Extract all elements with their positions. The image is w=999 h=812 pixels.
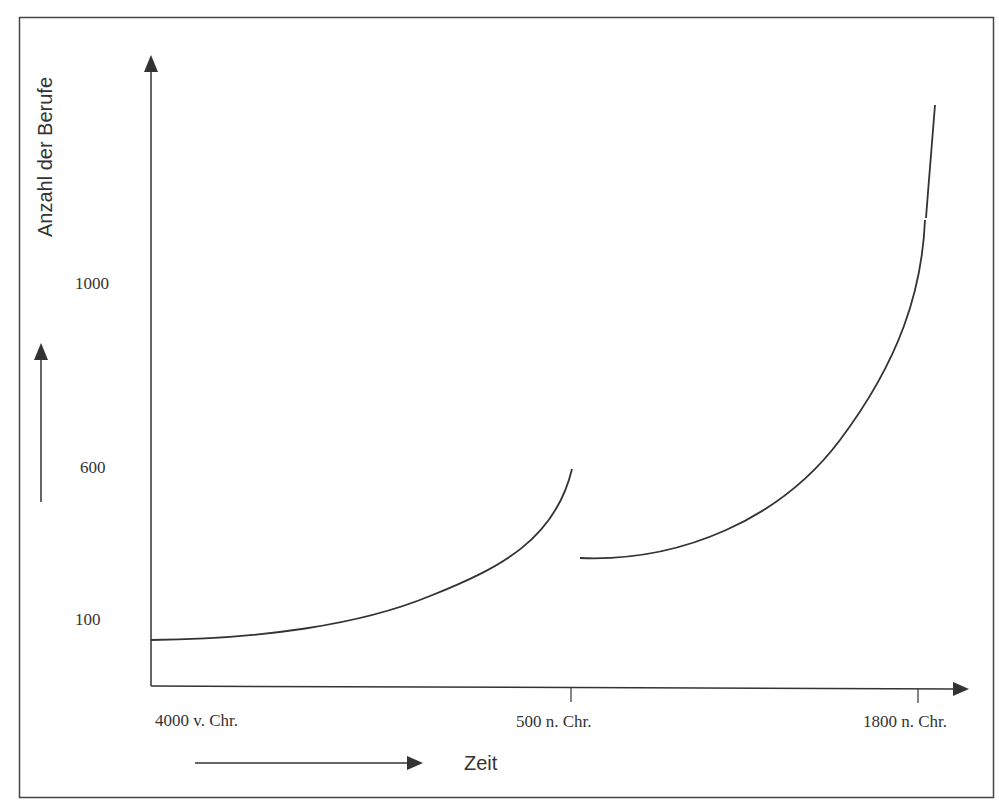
y-direction-arrow-icon bbox=[34, 343, 48, 502]
x-axis-arrowhead-icon bbox=[953, 682, 969, 696]
x-tick-label-4000bc: 4000 v. Chr. bbox=[155, 711, 238, 730]
x-tick-label-500ad: 500 n. Chr. bbox=[516, 712, 592, 731]
chart-figure: Anzahl der Berufe 1000 600 100 4000 v. C… bbox=[0, 0, 999, 812]
y-axis bbox=[144, 55, 158, 686]
figure-frame bbox=[20, 18, 994, 798]
curve-segment-2-top bbox=[926, 105, 935, 218]
curve-segment-2 bbox=[580, 220, 925, 558]
y-tick-label-1000: 1000 bbox=[75, 274, 109, 293]
y-tick-label-100: 100 bbox=[75, 610, 101, 629]
x-tick-label-1800ad: 1800 n. Chr. bbox=[863, 712, 947, 731]
curve-segment-1 bbox=[151, 469, 572, 640]
x-direction-arrow-icon bbox=[195, 756, 423, 770]
x-axis-label: Zeit bbox=[464, 752, 498, 774]
x-axis bbox=[151, 682, 969, 703]
y-axis-arrowhead-icon bbox=[144, 55, 158, 72]
y-tick-label-600: 600 bbox=[80, 458, 106, 477]
y-axis-label: Anzahl der Berufe bbox=[34, 77, 56, 237]
